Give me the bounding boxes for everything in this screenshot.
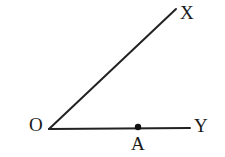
ray-ox-line bbox=[49, 9, 176, 129]
vertex-label-o: O bbox=[29, 115, 43, 134]
point-label-a: A bbox=[131, 134, 145, 153]
geometry-figure: O X Y A bbox=[0, 0, 225, 157]
ray-endpoint-label-y: Y bbox=[194, 116, 208, 135]
ray-endpoint-label-x: X bbox=[180, 3, 194, 22]
point-a-marker-dot bbox=[135, 124, 141, 130]
ray-oy-line bbox=[49, 128, 190, 129]
